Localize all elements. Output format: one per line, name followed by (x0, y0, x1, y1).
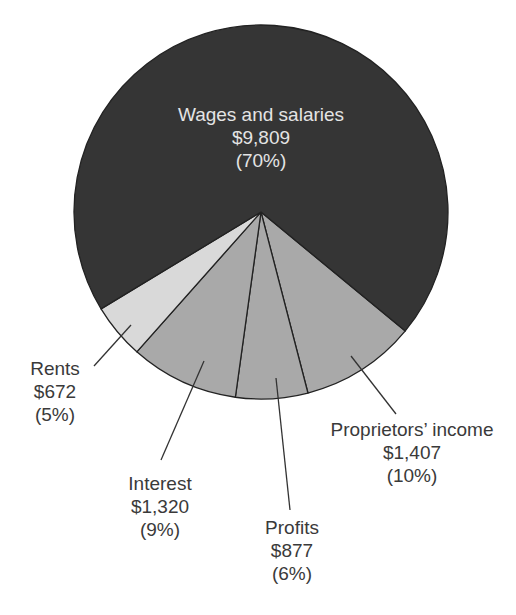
slice-label-profits: Profits $877 (6%) (265, 516, 319, 585)
slice-label-percent: (5%) (30, 403, 80, 426)
slice-label-percent: (9%) (128, 518, 191, 541)
pie-chart-graphic (0, 0, 516, 615)
slice-label-name: Interest (128, 472, 191, 495)
slice-label-value: $877 (265, 539, 319, 562)
slice-label-name: Proprietors’ income (331, 418, 494, 441)
slice-label-value: $1,407 (331, 441, 494, 464)
slice-label-name: Wages and salaries (178, 103, 344, 126)
slice-label-value: $672 (30, 380, 80, 403)
slice-label-name: Rents (30, 357, 80, 380)
slice-label-name: Profits (265, 516, 319, 539)
slice-label-rents: Rents $672 (5%) (30, 357, 80, 426)
leader-line-proprietors (351, 356, 396, 414)
slice-label-percent: (10%) (331, 464, 494, 487)
slice-label-wages: Wages and salaries $9,809 (70%) (178, 103, 344, 172)
leader-line-rents (94, 325, 131, 366)
slice-label-percent: (70%) (178, 149, 344, 172)
pie-slices (74, 25, 448, 399)
slice-label-proprietors: Proprietors’ income $1,407 (10%) (331, 418, 494, 487)
slice-label-value: $9,809 (178, 126, 344, 149)
pie-chart: Wages and salaries $9,809 (70%) Rents $6… (0, 0, 516, 615)
slice-label-value: $1,320 (128, 495, 191, 518)
slice-label-interest: Interest $1,320 (9%) (128, 472, 191, 541)
slice-label-percent: (6%) (265, 562, 319, 585)
